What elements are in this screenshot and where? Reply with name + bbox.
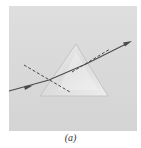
diagram-canvas bbox=[0, 0, 141, 148]
prism-refraction-figure: (a) bbox=[0, 0, 141, 148]
figure-caption: (a) bbox=[0, 132, 141, 143]
